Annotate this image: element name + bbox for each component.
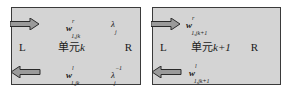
top-wave-variable: wr1,jk — [66, 21, 80, 37]
cell-k-plus-1-box: L R 单元k+1 wr1,jk+1 wl1,jk+1 — [152, 7, 281, 85]
bottom-wave-variable: wl1,jk — [66, 68, 80, 84]
cell-k-box: L R 单元k wr1,jk wl1,jk λj λ−1j — [11, 7, 141, 85]
top-wave-variable: wr1,jk+1 — [186, 18, 207, 34]
top-eigenvalue: λj — [111, 20, 117, 33]
right-boundary-label: R — [125, 42, 132, 53]
arrow-right-icon — [10, 18, 40, 30]
left-boundary-label: L — [19, 42, 26, 53]
bottom-eigenvalue: λ−1j — [111, 68, 116, 84]
arrow-left-icon — [11, 66, 41, 78]
arrow-left-icon — [152, 66, 182, 78]
bottom-wave-variable: wl1,jk+1 — [189, 66, 210, 82]
left-boundary-label: L — [160, 42, 167, 53]
cell-name: 单元k — [58, 42, 85, 53]
right-boundary-label: R — [251, 42, 258, 53]
arrow-right-icon — [151, 18, 181, 30]
cell-name: 单元k+1 — [191, 42, 231, 53]
